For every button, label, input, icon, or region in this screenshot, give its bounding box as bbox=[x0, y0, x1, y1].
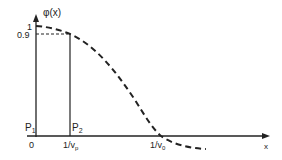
point-p1: P1 bbox=[25, 122, 36, 134]
x-tick-1-over-v0: 1/v0 bbox=[150, 140, 166, 151]
y-tick-0.9: 0.9 bbox=[17, 30, 30, 40]
point-p2: P2 bbox=[72, 122, 83, 134]
phi-diagram: φ(x) 1 0.9 P1 P2 0 1/vp 1/v0 x bbox=[0, 0, 282, 160]
x-tick-1-over-vp: 1/vp bbox=[63, 140, 79, 151]
phi-curve bbox=[36, 26, 206, 149]
y-axis-label: φ(x) bbox=[43, 7, 61, 18]
x-tick-0: 0 bbox=[29, 140, 34, 150]
x-axis-label: x bbox=[264, 142, 268, 151]
